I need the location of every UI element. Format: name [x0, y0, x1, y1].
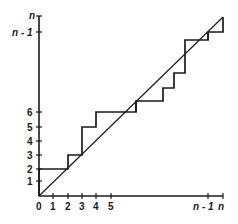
x-label-4: 4	[93, 201, 99, 212]
y-label-2: 2	[27, 164, 33, 175]
x-label-n-minus-1: n - 1	[193, 201, 214, 212]
y-label-n: n	[29, 10, 35, 21]
x-label-1: 1	[50, 201, 56, 212]
y-label-5: 5	[27, 122, 33, 133]
y-label-1: 1	[27, 176, 33, 187]
x-label-5: 5	[108, 201, 114, 212]
y-label-4: 4	[27, 136, 33, 147]
x-tick-labels: 0 1 2 3 4 5 n - 1 n	[36, 201, 224, 212]
x-label-2: 2	[65, 201, 71, 212]
x-label-0: 0	[36, 201, 42, 212]
y-label-n-minus-1: n - 1	[12, 27, 33, 38]
x-label-n: n	[218, 201, 224, 212]
staircase-diagram: 0 1 2 3 4 5 n - 1 n 1 2 3 4 5 6 n - 1 n	[0, 0, 238, 224]
y-label-6: 6	[27, 107, 33, 118]
y-label-3: 3	[27, 150, 33, 161]
y-tick-labels: 1 2 3 4 5 6 n - 1 n	[12, 10, 35, 187]
x-label-3: 3	[79, 201, 85, 212]
